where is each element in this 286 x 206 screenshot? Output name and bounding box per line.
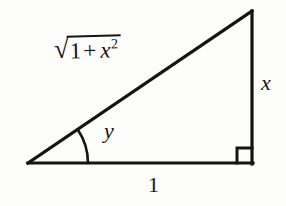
radical-expression: √ 1+x2 bbox=[54, 34, 122, 64]
angle-label: y bbox=[104, 120, 114, 142]
triangle-figure: √ 1+x2 x 1 y bbox=[0, 0, 286, 206]
radicand: 1+x2 bbox=[66, 34, 121, 64]
radicand-plus-sign: + bbox=[81, 38, 99, 63]
base-side-label: 1 bbox=[148, 174, 159, 196]
right-angle-marker-icon bbox=[237, 148, 252, 163]
radicand-variable: x bbox=[98, 38, 111, 63]
angle-arc-icon bbox=[78, 129, 88, 163]
triangle-diagram-svg bbox=[0, 0, 286, 206]
hypotenuse-label: √ 1+x2 bbox=[54, 34, 122, 64]
vertical-side-label: x bbox=[261, 72, 271, 94]
radicand-exponent: 2 bbox=[110, 36, 118, 52]
radical-sign-icon: √ bbox=[54, 37, 69, 63]
